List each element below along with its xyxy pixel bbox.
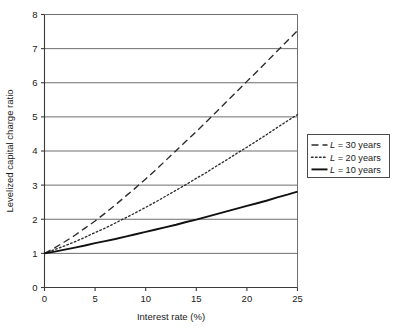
- y-tick-label-6: 6: [32, 77, 37, 88]
- x-tick-label-5: 5: [92, 293, 97, 304]
- legend-text-2: = 10 years: [335, 165, 381, 175]
- y-tick-label-3: 3: [32, 180, 37, 191]
- x-tick-label-25: 25: [292, 293, 303, 304]
- x-tick-label-10: 10: [140, 293, 151, 304]
- y-tick-label-5: 5: [32, 111, 37, 122]
- chart-legend: L = 30 yearsL = 20 yearsL = 10 years: [308, 135, 390, 178]
- legend-label-0: L = 30 years: [330, 140, 381, 150]
- legend-text-0: = 30 years: [335, 140, 381, 150]
- y-axis-title: Levelized capital charge ratio: [4, 89, 15, 212]
- legend-label-1: L = 20 years: [330, 153, 381, 163]
- x-tick-label-0: 0: [42, 293, 47, 304]
- y-tick-label-8: 8: [32, 9, 37, 20]
- chart-figure: 012345678 0510152025 Interest rate (%)Le…: [0, 0, 395, 331]
- x-axis-title: Interest rate (%): [137, 311, 205, 322]
- legend-label-2: L = 10 years: [330, 165, 381, 175]
- legend-text-1: = 20 years: [335, 153, 381, 163]
- y-tick-label-1: 1: [32, 248, 37, 259]
- x-tick-label-20: 20: [242, 293, 253, 304]
- y-tick-label-2: 2: [32, 214, 37, 225]
- line-chart: 012345678 0510152025 Interest rate (%)Le…: [0, 0, 395, 331]
- y-axis-tick-labels: 012345678: [32, 9, 37, 293]
- y-tick-label-4: 4: [32, 145, 37, 156]
- y-tick-label-7: 7: [32, 43, 37, 54]
- y-tick-label-0: 0: [32, 282, 37, 293]
- x-tick-label-15: 15: [191, 293, 202, 304]
